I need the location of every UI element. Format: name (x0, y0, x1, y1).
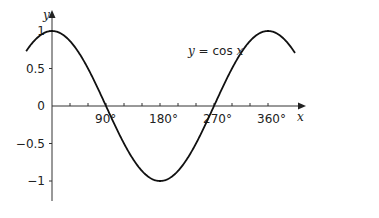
y-tick-label: 0 (37, 99, 45, 113)
curve-label-cos: = cos (195, 44, 237, 58)
y-tick-label: 0.5 (26, 62, 45, 76)
curve-label: y = cos x (187, 44, 243, 58)
y-axis-ticks: 10.50−0.5−1 (16, 24, 52, 188)
x-axis-arrow-icon (298, 103, 306, 110)
x-tick-label: 180° (149, 112, 178, 126)
x-tick-label: 360° (257, 112, 286, 126)
x-axis-label: x (297, 110, 304, 124)
y-tick-label: −0.5 (16, 137, 45, 151)
curve-label-x: x (236, 44, 243, 58)
cosine-chart: 90°180°270°360° 10.50−0.5−1 y x y = cos … (0, 0, 379, 218)
y-axis-label: y (42, 8, 50, 22)
x-tick-label: 90° (95, 112, 116, 126)
y-tick-label: −1 (27, 174, 45, 188)
